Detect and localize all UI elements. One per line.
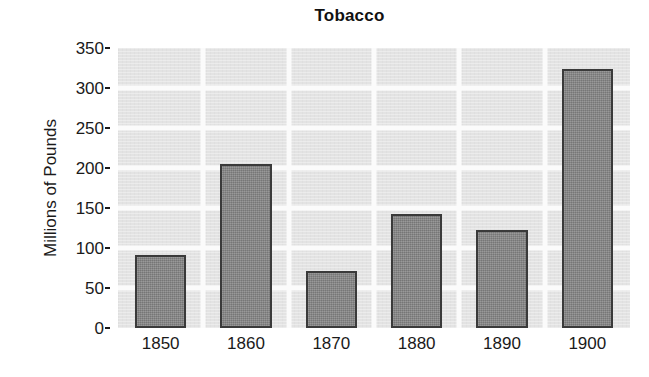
bar-1860 [220,164,271,328]
x-tick-label-1900: 1900 [568,334,606,354]
bar-1890 [476,230,527,328]
y-tick-mark-100 [105,247,110,249]
bar-1880 [391,214,442,328]
y-tick-label-0: 0 [95,320,104,337]
y-tick-mark-0 [105,327,110,329]
y-tick-label-100: 100 [76,240,104,257]
vertical-gridline [542,48,547,328]
x-tick-label-1890: 1890 [483,334,521,354]
x-tick-label-1870: 1870 [312,334,350,354]
y-tick-label-200: 200 [76,160,104,177]
x-tick-label-1880: 1880 [398,334,436,354]
y-tick-label-50: 50 [85,280,104,297]
plot-area [118,48,630,328]
tobacco-bar-chart: Tobacco Millions of Pounds 0501001502002… [0,0,649,377]
x-tick-label-1850: 1850 [142,334,180,354]
bar-1900 [562,69,613,328]
y-tick-mark-200 [105,167,110,169]
y-tick-label-300: 300 [76,80,104,97]
y-axis-tick-labels: 050100150200250300350 [52,0,110,377]
x-axis-line [118,328,630,329]
bar-1850 [135,255,186,328]
x-tick-label-1860: 1860 [227,334,265,354]
vertical-gridline [286,48,291,328]
y-tick-label-150: 150 [76,200,104,217]
y-tick-mark-50 [105,287,110,289]
vertical-gridline [372,48,377,328]
y-tick-label-250: 250 [76,120,104,137]
vertical-gridline [457,48,462,328]
y-tick-label-350: 350 [76,40,104,57]
y-tick-mark-250 [105,127,110,129]
y-tick-mark-350 [105,47,110,49]
x-axis-tick-labels: 185018601870188018901900 [118,334,630,364]
vertical-gridline [201,48,206,328]
y-tick-mark-150 [105,207,110,209]
y-tick-mark-300 [105,87,110,89]
bar-1870 [306,271,357,328]
